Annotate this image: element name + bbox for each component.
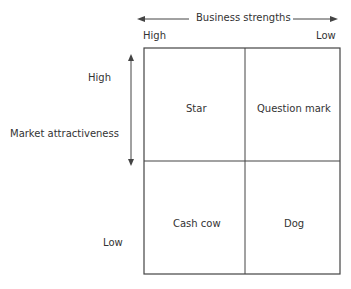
arrowhead-right-icon: [330, 16, 338, 22]
matrix-diagram: [0, 0, 351, 289]
quadrant-question-mark: Question mark: [257, 104, 331, 114]
y-axis-label: Market attractiveness: [10, 129, 119, 139]
y-axis-high-label: High: [88, 73, 111, 83]
arrowhead-left-icon: [137, 16, 145, 22]
x-axis-low-label: Low: [316, 31, 336, 41]
quadrant-cash-cow: Cash cow: [173, 219, 221, 229]
market-attractiveness-arrow: [128, 54, 134, 166]
arrowhead-up-icon: [128, 54, 134, 61]
x-axis-high-label: High: [143, 31, 166, 41]
arrowhead-down-icon: [128, 159, 134, 166]
y-axis-low-label: Low: [103, 238, 123, 248]
quadrant-dog: Dog: [284, 219, 304, 229]
quadrant-star: Star: [186, 104, 207, 114]
x-axis-label: Business strengths: [194, 13, 293, 23]
